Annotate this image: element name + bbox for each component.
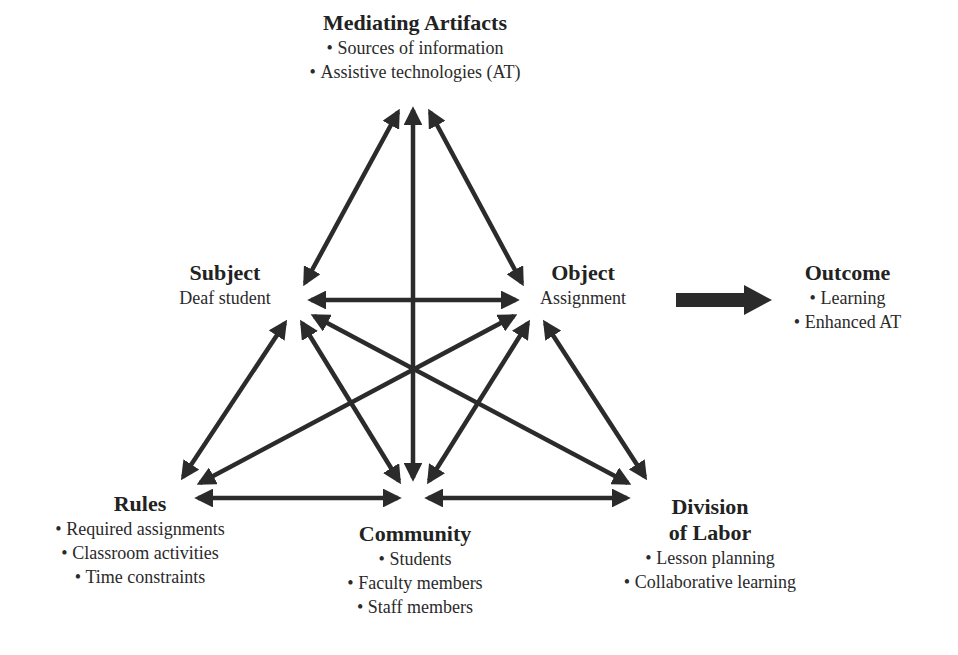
node-title-line2: of Labor: [600, 520, 820, 546]
node-outcome: Outcome Learning Enhanced AT: [780, 260, 915, 334]
node-rules: Rules Required assignments Classroom act…: [20, 491, 260, 589]
list-item: Lesson planning: [600, 546, 820, 570]
arrow-subject-artifacts: [305, 112, 398, 283]
list-item: Time constraints: [20, 565, 260, 589]
node-community: Community Students Faculty members Staff…: [320, 521, 510, 619]
arrow-object-outcome: [676, 285, 772, 315]
node-object: Object Assignment: [528, 260, 638, 310]
node-subtitle: Assignment: [528, 286, 638, 310]
node-subtitle: Deaf student: [160, 286, 290, 310]
list-item: Learning: [780, 286, 915, 310]
node-title-line1: Division: [600, 494, 820, 520]
node-division-of-labor: Division of Labor Lesson planning Collab…: [600, 494, 820, 594]
arrow-object-community: [429, 323, 528, 481]
list-item: Staff members: [320, 595, 510, 619]
node-title: Subject: [160, 260, 290, 286]
arrow-object-artifacts: [430, 112, 522, 283]
node-title: Community: [320, 521, 510, 547]
list-item: Students: [320, 547, 510, 571]
list-item: Assistive technologies (AT): [270, 60, 560, 84]
node-subject: Subject Deaf student: [160, 260, 290, 310]
list-item: Required assignments: [20, 517, 260, 541]
node-title: Object: [528, 260, 638, 286]
list-item: Sources of information: [270, 36, 560, 60]
list-item: Classroom activities: [20, 541, 260, 565]
list-item: Collaborative learning: [600, 570, 820, 594]
node-title: Outcome: [780, 260, 915, 286]
list-item: Enhanced AT: [780, 310, 915, 334]
node-title: Rules: [20, 491, 260, 517]
arrow-object-division: [545, 323, 645, 477]
arrow-subject-rules: [183, 323, 285, 477]
node-mediating-artifacts: Mediating Artifacts Sources of informati…: [270, 10, 560, 84]
node-title: Mediating Artifacts: [270, 10, 560, 36]
list-item: Faculty members: [320, 571, 510, 595]
